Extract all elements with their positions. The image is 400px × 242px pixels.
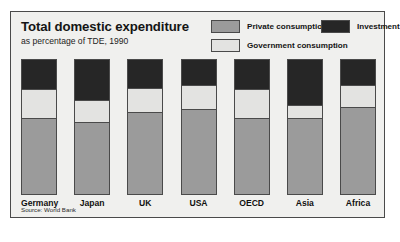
legend-item-private-consumption: Private consumption bbox=[211, 20, 327, 33]
category-label-japan: Japan bbox=[74, 198, 110, 208]
plot-area bbox=[21, 59, 374, 195]
bar-segment-government-consumption bbox=[235, 89, 269, 119]
bar-group bbox=[21, 59, 57, 195]
bar-group bbox=[127, 59, 163, 195]
legend-item-government-consumption: Government consumption bbox=[211, 39, 348, 52]
bar-segment-investment bbox=[75, 60, 109, 100]
bar-group bbox=[340, 59, 376, 195]
bar-group bbox=[287, 59, 323, 195]
chart-header: Total domestic expenditure as percentage… bbox=[11, 12, 384, 56]
bar-segment-government-consumption bbox=[341, 85, 375, 108]
bar-segment-private-consumption bbox=[128, 113, 162, 194]
bar-group bbox=[181, 59, 217, 195]
bar-segment-private-consumption bbox=[182, 110, 216, 194]
bar-group bbox=[234, 59, 270, 195]
bar-segment-investment bbox=[341, 60, 375, 85]
bar-segment-government-consumption bbox=[288, 105, 322, 119]
legend-swatch-investment bbox=[321, 20, 350, 33]
stacked-bar-germany bbox=[21, 59, 57, 195]
bar-segment-government-consumption bbox=[22, 89, 56, 119]
bar-segment-investment bbox=[128, 60, 162, 88]
bar-segment-private-consumption bbox=[22, 119, 56, 194]
stacked-bar-uk bbox=[127, 59, 163, 195]
chart-legend: Private consumption Investment Governmen… bbox=[211, 20, 379, 54]
chart-title: Total domestic expenditure bbox=[21, 19, 221, 34]
stacked-bar-asia bbox=[287, 59, 323, 195]
legend-label-private-consumption: Private consumption bbox=[247, 22, 327, 31]
source-note: Source: World Bank bbox=[21, 206, 76, 213]
category-label-asia: Asia bbox=[287, 198, 323, 208]
category-label-usa: USA bbox=[181, 198, 217, 208]
category-label-africa: Africa bbox=[340, 198, 376, 208]
category-label-uk: UK bbox=[127, 198, 163, 208]
legend-label-investment: Investment bbox=[357, 22, 400, 31]
bar-segment-investment bbox=[182, 60, 216, 85]
title-block: Total domestic expenditure as percentage… bbox=[21, 19, 221, 47]
bar-segment-private-consumption bbox=[235, 119, 269, 194]
bar-segment-investment bbox=[235, 60, 269, 89]
stacked-bar-africa bbox=[340, 59, 376, 195]
chart-figure: Total domestic expenditure as percentage… bbox=[10, 11, 385, 218]
legend-item-investment: Investment bbox=[321, 20, 400, 33]
stacked-bar-usa bbox=[181, 59, 217, 195]
bar-segment-private-consumption bbox=[341, 108, 375, 194]
bar-segment-government-consumption bbox=[75, 100, 109, 123]
category-label-oecd: OECD bbox=[234, 198, 270, 208]
bar-segment-government-consumption bbox=[128, 88, 162, 114]
stacked-bar-japan bbox=[74, 59, 110, 195]
bar-segment-investment bbox=[22, 60, 56, 89]
bar-segment-private-consumption bbox=[288, 119, 322, 194]
legend-swatch-government-consumption bbox=[211, 39, 240, 52]
bar-segment-private-consumption bbox=[75, 123, 109, 194]
chart-subtitle: as percentage of TDE, 1990 bbox=[21, 36, 221, 47]
legend-label-government-consumption: Government consumption bbox=[247, 41, 348, 50]
bar-group bbox=[74, 59, 110, 195]
legend-row-bottom: Government consumption bbox=[211, 39, 379, 54]
bar-segment-government-consumption bbox=[182, 85, 216, 109]
stacked-bar-oecd bbox=[234, 59, 270, 195]
legend-row-top: Private consumption Investment bbox=[211, 20, 379, 35]
legend-swatch-private-consumption bbox=[211, 20, 240, 33]
bar-segment-investment bbox=[288, 60, 322, 105]
